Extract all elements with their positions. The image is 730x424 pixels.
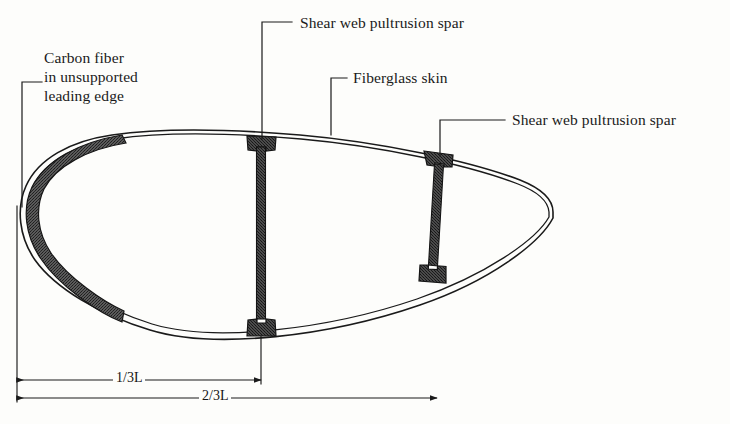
label-carbon-fiber: Carbon fiber in unsupported leading edge	[44, 48, 138, 105]
label-carbon-fiber-line-3: leading edge	[44, 86, 138, 105]
leader-shear-web-spar-1	[262, 22, 292, 139]
label-carbon-fiber-line-1: Carbon fiber	[44, 48, 138, 67]
leader-fiberglass-skin	[331, 78, 347, 135]
label-shear-web-pultrusion-spar-1: Shear web pultrusion spar	[300, 13, 464, 32]
label-shear-web-pultrusion-spar-2: Shear web pultrusion spar	[512, 110, 676, 129]
leader-shear-web-spar-2	[440, 120, 505, 156]
label-fiberglass-skin: Fiberglass skin	[353, 68, 448, 87]
label-carbon-fiber-line-2: in unsupported	[44, 67, 138, 86]
dimension-label-one-third: 1/3L	[113, 370, 145, 385]
dimension-label-two-thirds: 2/3L	[199, 388, 231, 403]
